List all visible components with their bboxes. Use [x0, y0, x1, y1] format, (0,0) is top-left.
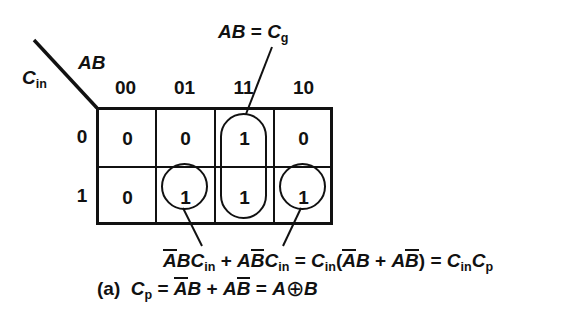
sub-plus: + — [207, 278, 218, 299]
annotation-rhs-subscript: g — [281, 31, 289, 45]
sub-b: B — [188, 278, 202, 299]
eq-term1-b: B — [177, 250, 191, 271]
eq-result-c-subscript: in — [461, 260, 472, 274]
eq-term2-a: A — [237, 250, 251, 271]
eq-factored-b-bar: B — [405, 249, 419, 270]
eq-factored-b: B — [356, 250, 370, 271]
equation-propagate-definition: (a) Cp = AB + AB = A⊕B — [97, 276, 318, 299]
equation-carry-propagate-expansion: ABCin + ABCin = Cin(AB + AB) = CinCp — [163, 248, 493, 270]
sub-a: A — [223, 278, 237, 299]
eq-term2-b-bar: B — [251, 249, 265, 270]
figure-canvas: Cin AB 00 01 11 10 0 1 0 0 1 0 0 1 1 1 A… — [0, 0, 580, 315]
annotation-equals: = — [251, 21, 262, 42]
xor-icon: ⊕ — [286, 278, 304, 300]
eq-result-c: C — [447, 250, 461, 271]
eq-term1-c-subscript: in — [204, 260, 215, 274]
eq-equals-2: = — [430, 250, 441, 271]
eq-close-paren: ) — [419, 250, 425, 271]
annotation-lhs: AB — [218, 21, 245, 42]
eq-factored-a: A — [391, 250, 405, 271]
eq-term2-c: C — [264, 250, 278, 271]
sub-xor-a: A — [272, 278, 286, 299]
sub-equals-1: = — [157, 278, 168, 299]
eq-term1-c: C — [190, 250, 204, 271]
sub-equals-2: = — [256, 278, 267, 299]
eq-result-cp-subscript: p — [485, 260, 493, 274]
sub-b-bar: B — [237, 277, 251, 298]
eq-equals-1: = — [295, 250, 306, 271]
eq-plus-2: + — [375, 250, 386, 271]
figure-label: (a) — [97, 278, 120, 299]
eq-factored-c-subscript: in — [325, 260, 336, 274]
eq-factored-a-bar: A — [342, 249, 356, 270]
sub-lhs-subscript: p — [145, 288, 153, 302]
eq-factored-c: C — [311, 250, 325, 271]
sub-lhs-c: C — [131, 278, 145, 299]
eq-result-cp: C — [472, 250, 486, 271]
eq-term1-a-bar: A — [163, 249, 177, 270]
annotation-ab-equals-cg: AB = Cg — [218, 22, 289, 41]
eq-term2-c-subscript: in — [278, 260, 289, 274]
eq-plus-1: + — [221, 250, 232, 271]
sub-xor-b: B — [304, 278, 318, 299]
annotation-rhs-base: C — [267, 21, 281, 42]
sub-a-bar: A — [174, 277, 188, 298]
